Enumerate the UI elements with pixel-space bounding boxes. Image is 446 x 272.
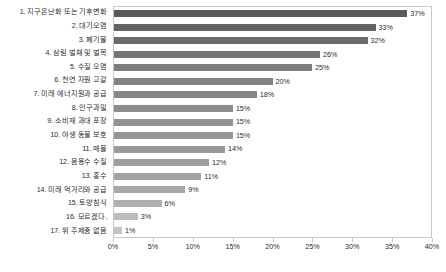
category-label: 6. 천연 자원 고갈 [0, 74, 110, 88]
x-tick-label: 30% [345, 243, 359, 250]
bar-value-label: 14% [228, 145, 242, 152]
x-tick-label: 10% [186, 243, 200, 250]
bar-row: 1% [114, 224, 431, 238]
bar-value-label: 25% [315, 64, 329, 71]
category-label: 16. 모르겠다. [0, 211, 110, 225]
x-axis-labels: 0%5%10%15%20%25%30%35%40% [113, 243, 432, 257]
category-label: 15. 토양침식 [0, 197, 110, 211]
x-tick-label: 20% [265, 243, 279, 250]
bar [114, 91, 257, 98]
bar-value-label: 32% [371, 37, 385, 44]
bar-value-label: 1% [125, 227, 135, 234]
bar [114, 173, 201, 180]
x-tick-label: 0% [108, 243, 118, 250]
bar [114, 10, 407, 17]
bar [114, 200, 162, 207]
x-tick-label: 25% [305, 243, 319, 250]
bar-value-label: 6% [165, 200, 175, 207]
category-label: 10. 야생 동물 보호 [0, 129, 110, 143]
bar-value-label: 11% [204, 173, 218, 180]
category-axis: 1. 지구온난화 또는 기후변화2. 대기오염3. 폐기물4. 삼림 벌채 및 … [0, 6, 110, 238]
bar-row: 6% [114, 196, 431, 210]
bar [114, 119, 233, 126]
bar-value-label: 12% [212, 159, 226, 166]
bar-value-label: 15% [236, 118, 250, 125]
bar-row: 33% [114, 21, 431, 35]
bar [114, 37, 368, 44]
bar [114, 146, 225, 153]
category-label: 9. 소비재 과대 포장 [0, 115, 110, 129]
bar-row: 9% [114, 183, 431, 197]
category-label: 7. 미래 에너지원과 공급 [0, 88, 110, 102]
bar-value-label: 33% [379, 24, 393, 31]
bar [114, 132, 233, 139]
bar-value-label: 20% [276, 78, 290, 85]
bar-chart: 1. 지구온난화 또는 기후변화2. 대기오염3. 폐기물4. 삼림 벌채 및 … [0, 0, 446, 272]
bar [114, 105, 233, 112]
category-label: 12. 음용수 수질 [0, 156, 110, 170]
bar-row: 20% [114, 75, 431, 89]
bar [114, 24, 376, 31]
category-label: 14. 미래 먹거리와 공급 [0, 183, 110, 197]
bar-row: 15% [114, 102, 431, 116]
bar-value-label: 9% [188, 186, 198, 193]
category-label: 8. 인구과밀 [0, 101, 110, 115]
category-label: 13. 홍수 [0, 170, 110, 184]
plot-area: 37%33%32%26%25%20%18%15%15%15%14%12%11%9… [113, 6, 432, 238]
category-label: 5. 수질 오염 [0, 61, 110, 75]
bar-row: 14% [114, 142, 431, 156]
bar [114, 213, 138, 220]
bar [114, 78, 273, 85]
bar [114, 64, 312, 71]
category-label: 17. 위 주제중 없음 [0, 224, 110, 238]
bar-row: 15% [114, 129, 431, 143]
bar-value-label: 15% [236, 132, 250, 139]
bar [114, 227, 122, 234]
bar-row: 11% [114, 169, 431, 183]
bar-row: 37% [114, 7, 431, 21]
x-tick-label: 40% [425, 243, 439, 250]
bar-value-label: 3% [141, 213, 151, 220]
x-tick-label: 35% [385, 243, 399, 250]
bar-row: 18% [114, 88, 431, 102]
bar-value-label: 37% [410, 10, 424, 17]
category-label: 1. 지구온난화 또는 기후변화 [0, 6, 110, 20]
bar-row: 25% [114, 61, 431, 75]
bar [114, 51, 320, 58]
bar-row: 26% [114, 48, 431, 62]
category-label: 2. 대기오염 [0, 20, 110, 34]
category-label: 11. 매몰 [0, 142, 110, 156]
bar-value-label: 26% [323, 51, 337, 58]
category-label: 3. 폐기물 [0, 33, 110, 47]
bar-row: 12% [114, 156, 431, 170]
bar-value-label: 15% [236, 105, 250, 112]
bar-value-label: 18% [260, 91, 274, 98]
bar-row: 15% [114, 115, 431, 129]
x-tick-label: 15% [225, 243, 239, 250]
bars-layer: 37%33%32%26%25%20%18%15%15%15%14%12%11%9… [114, 7, 431, 237]
bar [114, 186, 185, 193]
bar [114, 159, 209, 166]
x-tick-label: 5% [148, 243, 158, 250]
bar-row: 3% [114, 210, 431, 224]
bar-row: 32% [114, 34, 431, 48]
category-label: 4. 삼림 벌채 및 벌목 [0, 47, 110, 61]
